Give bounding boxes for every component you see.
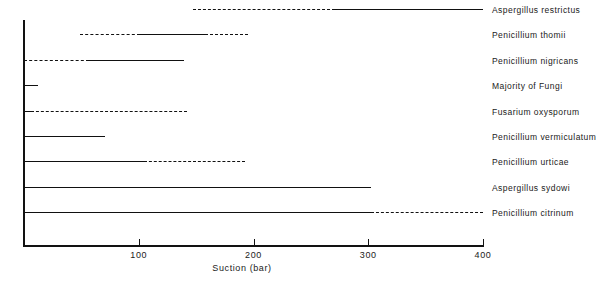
bar-segment-dashed [80,34,140,35]
bar-segment-solid [24,161,144,162]
bar-segment-solid [24,187,371,188]
x-tick-label-400: 400 [475,250,492,260]
chart-figure: 100200300400 Aspergillus restrictusPenic… [0,0,608,285]
x-tick-300 [368,239,369,245]
series-label-3: Majority of Fungi [492,81,562,91]
bar-segment-solid [24,111,31,112]
plot-area: 100200300400 Aspergillus restrictusPenic… [0,0,608,285]
series-label-4: Fusarium oxysporum [492,107,579,117]
bar-segment-dashed [31,111,187,112]
bar-segment-solid [89,60,183,61]
bar-segment-dashed [371,212,483,213]
series-label-7: Aspergillus sydowi [492,183,570,193]
bar-segment-solid [24,212,371,213]
bar-segment-solid [140,34,205,35]
x-tick-200 [254,239,255,245]
x-tick-400 [483,239,484,245]
x-axis-title: Suction (bar) [0,263,484,273]
series-label-0: Aspergillus restrictus [492,5,580,15]
x-axis-line [23,245,484,247]
bar-segment-dashed [24,60,89,61]
series-label-5: Penicillium vermiculatum [492,132,596,142]
bar-segment-dashed [144,161,245,162]
series-label-2: Penicillium nigricans [492,56,578,66]
bar-segment-solid [335,9,483,10]
bar-segment-dashed [205,34,247,35]
x-tick-label-200: 200 [245,250,262,260]
x-tick-100 [139,239,140,245]
bar-segment-solid [24,85,38,86]
x-tick-label-100: 100 [130,250,147,260]
series-label-8: Penicillium citrinum [492,208,574,218]
bar-segment-solid [24,136,105,137]
series-label-6: Penicillium urticae [492,157,569,167]
bar-segment-dashed [193,9,335,10]
series-label-1: Penicillium thomii [492,30,566,40]
x-tick-label-300: 300 [360,250,377,260]
